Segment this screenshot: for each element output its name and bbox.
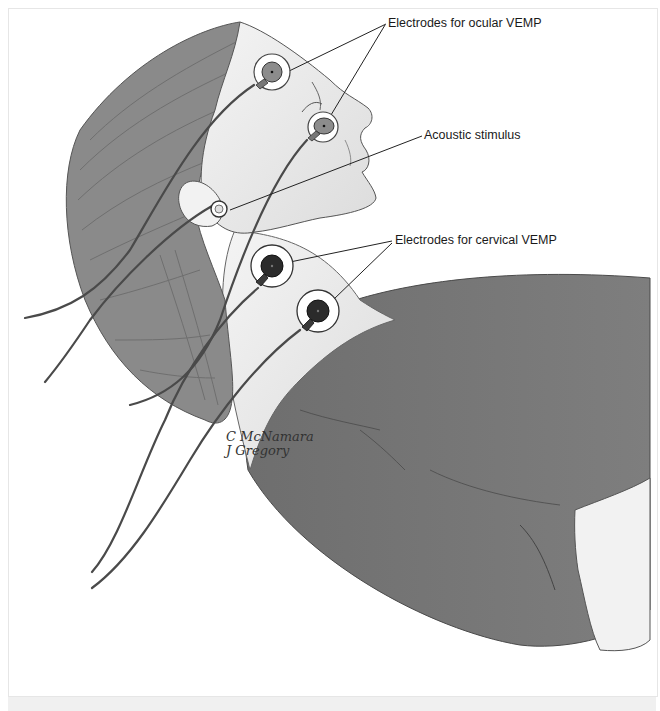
vemp-illustration bbox=[0, 0, 660, 711]
signature-line-2: J Gregory bbox=[226, 444, 314, 458]
cervical-electrode-upper bbox=[251, 245, 293, 287]
signature-line-1: C McNamara bbox=[226, 430, 314, 444]
cervical-electrode-lower bbox=[297, 290, 339, 332]
label-ocular-vemp: Electrodes for ocular VEMP bbox=[388, 16, 542, 30]
ocular-electrode-lower bbox=[308, 112, 338, 142]
artist-signature: C McNamara J Gregory bbox=[226, 430, 314, 458]
label-acoustic-stimulus: Acoustic stimulus bbox=[424, 128, 521, 142]
ocular-electrode-upper bbox=[254, 54, 290, 90]
acoustic-earpiece bbox=[211, 201, 227, 217]
label-cervical-vemp: Electrodes for cervical VEMP bbox=[395, 233, 557, 247]
